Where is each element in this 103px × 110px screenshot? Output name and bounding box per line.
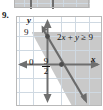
y-intercept-point [45, 34, 50, 39]
y-intercept-label: 9 [24, 28, 29, 37]
x-intercept-point [59, 62, 64, 67]
origin-label: 0 [29, 58, 34, 67]
inequality-constant: 9 [89, 32, 94, 42]
y-axis-label: y [27, 16, 31, 25]
inequality-relation: ≥ [81, 32, 86, 42]
inequality-var-x: x [62, 32, 66, 42]
x-intercept-fraction: 9 2 [41, 57, 51, 76]
inequality-label: 2x + y ≥ 9 [57, 33, 93, 42]
inequality-var-y: y [75, 32, 79, 42]
fraction-numerator: 9 [41, 57, 51, 66]
problem-number: 9. [2, 10, 9, 20]
fraction-denominator: 2 [41, 67, 51, 76]
previous-figure-remnant [0, 0, 103, 9]
remnant-panel-border [14, 0, 89, 8]
x-axis-label: x [91, 55, 96, 64]
figure-root: 9. [0, 0, 103, 110]
inequality-plus: + [68, 32, 73, 42]
